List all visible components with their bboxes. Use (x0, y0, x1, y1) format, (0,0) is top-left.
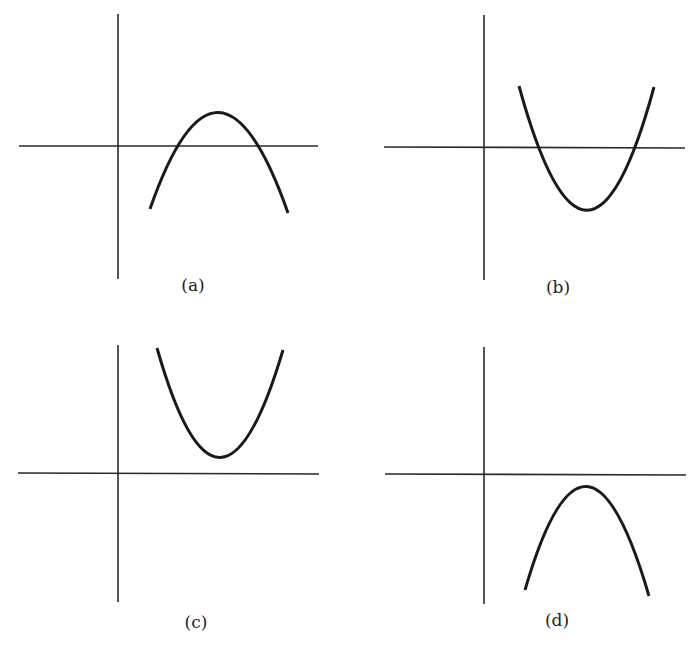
panel-label: (d) (545, 610, 569, 630)
panel-label: (c) (185, 612, 208, 632)
panel-d: (d) (385, 347, 686, 630)
parabola-curve (525, 486, 649, 596)
x-axis (384, 147, 685, 148)
panel-c: (c) (18, 345, 319, 632)
x-axis (385, 474, 686, 475)
panel-label: (a) (181, 275, 204, 295)
parabola-figure: (a) (b) (c) (d) (0, 0, 699, 652)
panel-a: (a) (19, 14, 318, 295)
parabola-curve (157, 348, 283, 458)
panel-b: (b) (384, 15, 685, 297)
panel-label: (b) (546, 277, 570, 297)
parabola-curve (150, 112, 288, 213)
x-axis (18, 473, 319, 474)
